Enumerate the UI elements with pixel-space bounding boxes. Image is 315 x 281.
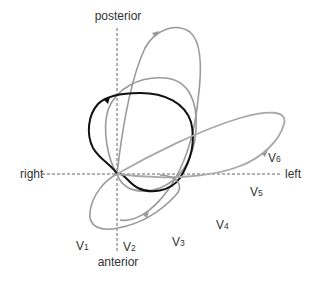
lead-v1-label: V1 [76, 239, 89, 253]
right-label: right [20, 167, 44, 181]
anterior-lower-loop [90, 174, 180, 229]
diagram-svg: posterior anterior right left V1 V2 V3 V… [0, 0, 315, 281]
lead-v5-label: V5 [250, 185, 263, 199]
lead-v4-label: V4 [216, 218, 229, 232]
lead-v3-label: V3 [172, 235, 185, 249]
left-label: left [285, 167, 302, 181]
anterior-label: anterior [98, 255, 139, 269]
lead-v6-label: V6 [268, 151, 281, 165]
lead-v2-label: V2 [123, 240, 136, 254]
posterior-label: posterior [95, 9, 142, 23]
leftward-elongated-loop [117, 113, 285, 178]
vector-loop-diagram: posterior anterior right left V1 V2 V3 V… [0, 0, 315, 281]
